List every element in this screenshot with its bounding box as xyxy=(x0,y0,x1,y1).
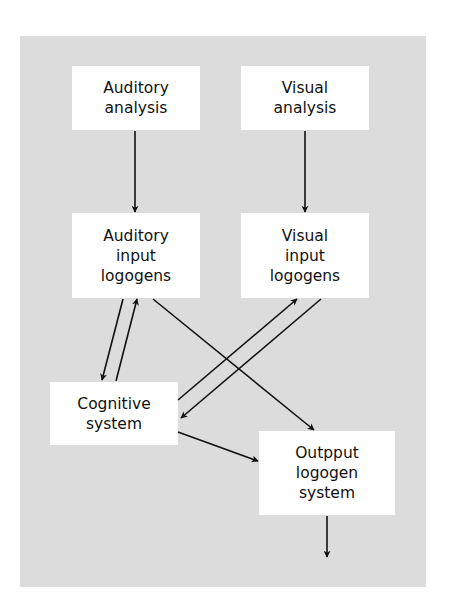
connector-arrows xyxy=(0,0,449,616)
arrow-auditory-input-to-output xyxy=(153,299,314,430)
arrow-cognitive-to-output xyxy=(178,432,258,461)
arrow-cognitive-to-visual-input xyxy=(178,299,297,400)
arrow-visual-input-to-cognitive xyxy=(181,299,321,418)
